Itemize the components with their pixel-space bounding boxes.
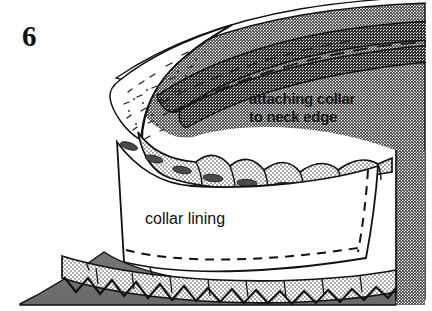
callout-attaching-collar: attaching collar to neck edge [249, 90, 355, 126]
callout-collar-lining: collar lining [145, 210, 225, 228]
illustration-canvas: 6 attaching collar to neck edge collar l… [0, 0, 432, 311]
figure-number: 6 [22, 22, 37, 51]
callout-line-1: attaching collar [249, 90, 355, 108]
callout-line-2: to neck edge [249, 108, 355, 126]
sewing-diagram-artwork [0, 0, 432, 311]
